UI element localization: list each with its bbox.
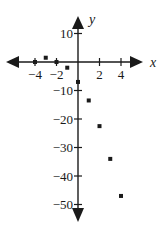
x-tick-label: −2 xyxy=(50,67,64,82)
y-axis-label: y xyxy=(87,12,96,27)
y-axis-down-arrow-icon xyxy=(72,208,84,222)
y-tick-label: −10 xyxy=(53,83,73,98)
y-tick-label: −50 xyxy=(53,197,73,212)
data-point xyxy=(119,194,123,198)
y-axis-up-arrow-icon xyxy=(72,16,84,29)
axes: x y xyxy=(6,12,157,222)
y-tick-label: −30 xyxy=(53,140,73,155)
x-tick-label: 2 xyxy=(96,67,103,82)
data-point xyxy=(87,98,91,102)
data-point xyxy=(33,60,37,64)
scatter-plot: x y −4−224 10−10−20−30−40−50 xyxy=(0,0,167,235)
data-point xyxy=(108,157,112,161)
y-tick-label: −40 xyxy=(53,169,73,184)
data-point xyxy=(76,80,80,84)
data-point xyxy=(65,66,69,70)
data-point xyxy=(55,60,59,64)
x-axis-label: x xyxy=(149,55,157,70)
y-tick-label: −20 xyxy=(53,112,73,127)
y-tick-label: 10 xyxy=(60,26,73,41)
x-axis-left-arrow-icon xyxy=(6,56,19,68)
data-point xyxy=(98,124,102,128)
x-tick-label: 4 xyxy=(118,67,125,82)
data-point xyxy=(44,56,48,60)
x-tick-label: −4 xyxy=(28,67,42,82)
x-axis-right-arrow-icon xyxy=(130,56,143,68)
